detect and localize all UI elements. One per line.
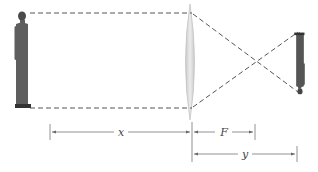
lens-diagram: x F y: [0, 0, 318, 172]
dimension-label-F: F: [219, 126, 228, 139]
light-rays: [30, 13, 298, 108]
image-person-icon: [294, 33, 305, 95]
dimension-label-y: y: [241, 148, 249, 161]
object-person-icon: [15, 12, 32, 109]
lens-icon: [186, 4, 195, 120]
dimension-label-x: x: [118, 126, 125, 139]
dimension-lines: [50, 122, 297, 162]
